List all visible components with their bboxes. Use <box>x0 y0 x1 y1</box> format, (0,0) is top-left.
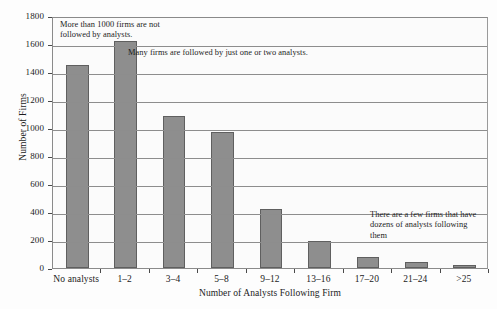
y-tick-label: 0 <box>0 263 44 273</box>
y-tick-mark <box>48 241 52 242</box>
y-tick-mark <box>48 129 52 130</box>
bar <box>66 65 89 268</box>
y-tick-mark <box>48 101 52 102</box>
gridline <box>53 158 487 159</box>
y-tick-mark <box>48 269 52 270</box>
figure-container: Number of Firms 020040060080010001200140… <box>0 0 497 309</box>
y-tick-label: 1800 <box>0 11 44 21</box>
x-tick-mark <box>294 269 295 273</box>
y-tick-label: 200 <box>0 235 44 245</box>
x-tick-label: 13–16 <box>294 274 342 284</box>
x-tick-mark <box>391 269 392 273</box>
gridline <box>53 242 487 243</box>
annotation-few-analysts: Many firms are followed by just one or t… <box>128 48 358 58</box>
bar <box>453 265 476 268</box>
x-tick-label: 17–20 <box>343 274 391 284</box>
x-tick-mark <box>149 269 150 273</box>
y-tick-mark <box>48 157 52 158</box>
bar <box>163 116 186 268</box>
y-tick-mark <box>48 213 52 214</box>
bar <box>114 41 137 268</box>
y-tick-label: 1600 <box>0 39 44 49</box>
y-tick-label: 1000 <box>0 123 44 133</box>
x-tick-label: 21–24 <box>391 274 439 284</box>
gridline <box>53 46 487 47</box>
gridline <box>53 74 487 75</box>
x-tick-mark <box>488 269 489 273</box>
x-tick-label: No analysts <box>52 274 100 284</box>
x-tick-label: 5–8 <box>197 274 245 284</box>
annotation-no-analysts: More than 1000 firms are not followed by… <box>60 20 170 41</box>
y-tick-label: 1200 <box>0 95 44 105</box>
x-tick-mark <box>197 269 198 273</box>
gridline <box>53 130 487 131</box>
annotation-many-analysts: There are a few firms that have dozens o… <box>370 210 478 241</box>
gridline <box>53 102 487 103</box>
bar <box>405 262 428 268</box>
x-tick-mark <box>440 269 441 273</box>
x-tick-label: 9–12 <box>246 274 294 284</box>
gridline <box>53 186 487 187</box>
y-tick-mark <box>48 17 52 18</box>
bar <box>357 257 380 268</box>
x-tick-label: 1–2 <box>100 274 148 284</box>
y-tick-mark <box>48 45 52 46</box>
bar <box>308 241 331 268</box>
y-tick-label: 800 <box>0 151 44 161</box>
x-tick-label: 3–4 <box>149 274 197 284</box>
y-tick-label: 600 <box>0 179 44 189</box>
y-tick-mark <box>48 185 52 186</box>
bar <box>260 209 283 268</box>
y-tick-label: 400 <box>0 207 44 217</box>
x-tick-mark <box>343 269 344 273</box>
y-tick-label: 1400 <box>0 67 44 77</box>
x-tick-mark <box>100 269 101 273</box>
x-tick-label: >25 <box>440 274 488 284</box>
bar <box>211 132 234 269</box>
x-tick-mark <box>246 269 247 273</box>
x-axis-title: Number of Analysts Following Firm <box>52 288 488 298</box>
y-tick-mark <box>48 73 52 74</box>
